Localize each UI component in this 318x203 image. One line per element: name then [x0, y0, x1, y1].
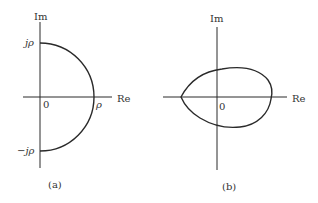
diagram-b: Im Re 0 (b) [163, 13, 306, 192]
origin-label-a: 0 [43, 99, 49, 110]
caption-a: (a) [48, 179, 62, 190]
re-label-b: Re [292, 93, 306, 104]
egg-contour-b [181, 68, 272, 128]
neg-jrho-label: −jρ [17, 145, 34, 156]
jrho-label: jρ [23, 37, 34, 48]
contour-diagrams: Im Re 0 jρ −jρ ρ (a) Im Re 0 (b) [0, 0, 318, 203]
im-label-a: Im [34, 11, 48, 22]
caption-b: (b) [222, 181, 236, 192]
origin-label-b: 0 [219, 101, 225, 112]
rho-label: ρ [95, 99, 102, 110]
im-label-b: Im [210, 13, 224, 24]
diagram-a: Im Re 0 jρ −jρ ρ (a) [17, 11, 131, 190]
re-label-a: Re [117, 93, 131, 104]
